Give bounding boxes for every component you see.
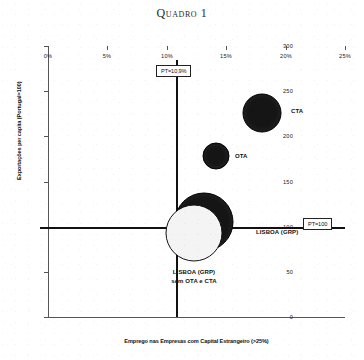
bubble-label-lisboa-grp: LISBOA (GRP) [256,229,298,235]
callout-pt-emprego: PT=10,9% [156,65,191,77]
x-tick-label-20: 20% [271,53,301,59]
bubble-label-lisboa-grp-sem-ota-cta: LISBOA (GRP) sem OTA e CTA [171,268,217,286]
x-tick-label-25: 25% [330,53,360,59]
x-tick-label-5: 5% [92,53,122,59]
x-tick-5 [107,46,108,50]
y-tick-label-250: 250 [263,88,293,94]
callout-pt-exportacoes: PT=100 [303,218,332,230]
page-title: Quadro 1 [0,6,364,21]
y-tick-label-0: 0 [263,314,293,320]
x-tick-label-0: 0% [33,53,63,59]
plot-area: 300 250 200 150 100 50 0 0% 5% 10% 15% 2… [48,46,345,317]
x-axis-line [48,317,345,318]
bubble-ota[interactable] [203,143,230,170]
bubble-label-cta: CTA [291,108,303,114]
x-tick-10 [167,46,168,50]
y-tick-label-300: 300 [263,43,293,49]
bubble-label-line-1: LISBOA (GRP) [171,268,217,277]
y-tick-0 [44,317,48,318]
bubble-cta[interactable] [243,94,282,133]
x-tick-20 [286,46,287,50]
bubble-label-line-2: sem OTA e CTA [171,277,217,286]
x-tick-25 [345,46,346,50]
x-tick-0 [48,46,49,50]
y-tick-label-150: 150 [263,179,293,185]
bubble-lisboa-grp-sem-ota-cta[interactable] [166,205,223,262]
y-tick-50 [44,272,48,273]
x-axis-title: Emprego nas Empresas com Capital Estrang… [48,338,345,344]
y-tick-label-200: 200 [263,133,293,139]
y-tick-150 [44,182,48,183]
y-tick-label-50: 50 [263,269,293,275]
y-tick-200 [44,136,48,137]
y-axis-line [48,46,49,317]
x-tick-label-15: 15% [211,53,241,59]
x-tick-15 [226,46,227,50]
x-tick-label-10: 10% [152,53,182,59]
y-axis-title: Exportações per capita (Portugal=100) [16,82,22,180]
y-tick-250 [44,91,48,92]
bubble-label-ota: OTA [235,153,248,159]
